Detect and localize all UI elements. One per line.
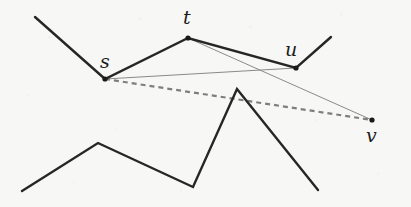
lower-polyline [22, 89, 318, 191]
vertex-dot-s [102, 76, 107, 81]
vertex-label-t: t [183, 8, 191, 27]
vertex-label-u: u [285, 40, 297, 59]
vertex-dot-v [369, 117, 374, 122]
figure-canvas [0, 0, 411, 207]
vertex-dot-group [102, 35, 374, 122]
dashed-segment-s-v [105, 79, 372, 120]
vertex-label-v: v [366, 126, 377, 145]
vertex-label-s: s [100, 52, 110, 71]
vertex-dot-t [185, 35, 190, 40]
geometry-figure: s t u v [0, 0, 411, 207]
vertex-dot-u [293, 65, 298, 70]
visibility-segment-t-v [188, 38, 372, 120]
